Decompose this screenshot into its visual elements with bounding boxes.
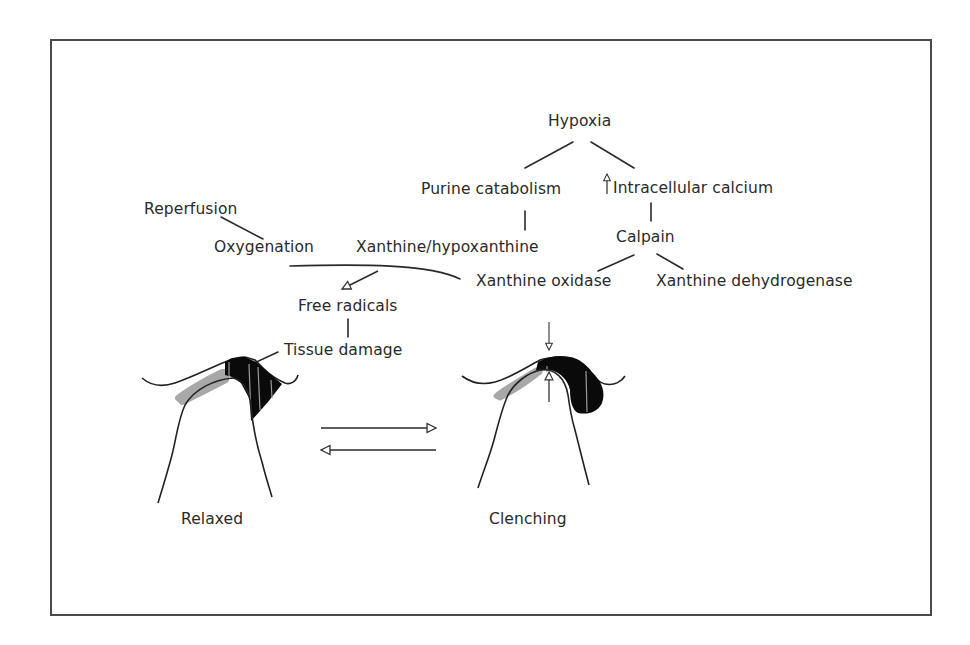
edge-hypoxia-calcium [591, 142, 634, 168]
clenching-cartilage-disc [496, 370, 540, 398]
clenching-joint-illustration [462, 322, 625, 488]
edge-reperfusion-oxygenation [221, 217, 263, 239]
edge-hypoxia-purine [525, 142, 573, 168]
node-purine-catabolism: Purine catabolism [421, 182, 561, 198]
node-intracellular-calcium: Intracellular calcium [613, 181, 773, 197]
relaxed-joint-illustration [142, 357, 298, 503]
node-xanthine-hypoxanthine: Xanthine/hypoxanthine [356, 240, 539, 256]
edge-calpain-oxidase [598, 255, 634, 271]
node-oxygenation: Oxygenation [214, 240, 314, 256]
node-free-radicals: Free radicals [298, 299, 398, 315]
node-hypoxia: Hypoxia [548, 114, 611, 130]
relaxed-tissue-region [225, 357, 282, 421]
edge-calpain-dehydrogenase [657, 254, 683, 269]
node-tissue-damage: Tissue damage [284, 343, 402, 359]
node-calpain: Calpain [616, 230, 675, 246]
diagram-canvas [0, 0, 970, 645]
relaxed-cartilage-disc [178, 372, 226, 402]
arrow-to-free-radicals [342, 271, 378, 289]
panel-label-clenching: Clenching [489, 512, 567, 528]
panel-label-relaxed: Relaxed [181, 512, 243, 528]
node-reperfusion: Reperfusion [144, 202, 237, 218]
node-xanthine-oxidase: Xanthine oxidase [476, 274, 611, 290]
node-xanthine-dehydrogenase: Xanthine dehydrogenase [656, 274, 853, 290]
